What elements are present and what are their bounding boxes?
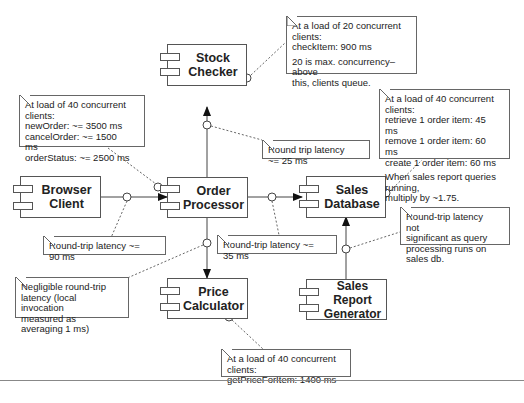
component-price-calculator[interactable]: PriceCalculator xyxy=(167,278,248,319)
interface-price-link xyxy=(203,239,211,247)
component-tab-icon xyxy=(160,185,180,193)
note-browser-latency: Round-trip latency ~= 90 ms xyxy=(43,236,166,255)
note-line: latency (local invocation xyxy=(21,293,116,314)
component-tab-icon xyxy=(13,185,33,193)
component-tab-icon xyxy=(160,53,180,61)
note-line: measured as averaging 1 ms) xyxy=(21,314,116,335)
component-tab-icon xyxy=(160,303,180,311)
note-line: Round-trip latency ~= 35 ms xyxy=(223,240,324,261)
note-price-calculator-load: At a load of 40 concurrent clients: getP… xyxy=(221,349,351,377)
note-fold-icon xyxy=(20,95,30,105)
note-line: processing runs on sales db. xyxy=(406,244,497,265)
note-line: remove 1 order item: 60 ms xyxy=(385,136,497,157)
component-stock-checker[interactable]: StockChecker xyxy=(167,44,247,86)
note-line: this, clients queue. xyxy=(292,78,404,89)
note-line: At load of 40 concurrent clients: xyxy=(25,100,132,121)
note-line: Negligible round-trip xyxy=(21,282,116,293)
note-fold-icon xyxy=(44,236,54,246)
note-line: cancelOrder: ~= 1500 ms xyxy=(25,132,132,153)
note-report-latency: Round-trip latency not significant as qu… xyxy=(400,207,510,245)
note-sales-database-load: At a load of 40 concurrent clients: retr… xyxy=(379,89,510,159)
component-sales-report-generator[interactable]: Sales ReportGenerator xyxy=(306,279,387,320)
component-label: PriceCalculator xyxy=(182,279,245,318)
bottom-divider xyxy=(0,380,524,381)
component-label: Sales ReportGenerator xyxy=(321,280,384,319)
note-line: retrieve 1 order item: 45 ms xyxy=(385,115,497,136)
note-line: Round trip latency ~= 25 ms xyxy=(268,145,357,166)
interface-browser xyxy=(123,193,131,201)
interface-database-link xyxy=(268,193,276,201)
component-sales-database[interactable]: SalesDatabase xyxy=(306,176,386,218)
note-line: 20 is max. concurrency–above xyxy=(292,57,404,78)
component-label: OrderProcessor xyxy=(182,178,245,217)
note-database-latency: Round-trip latency ~= 35 ms xyxy=(217,235,337,254)
component-tab-icon xyxy=(299,288,319,296)
interface-stock xyxy=(203,121,211,129)
note-fold-icon xyxy=(401,207,411,217)
component-tab-icon xyxy=(299,200,319,208)
component-label: SalesDatabase xyxy=(321,177,383,217)
component-label: BrowserClient xyxy=(35,177,98,217)
component-tab-icon xyxy=(160,202,180,210)
note-line: orderStatus: ~= 2500 ms xyxy=(25,153,132,164)
note-fold-icon xyxy=(218,235,228,245)
note-line: Round-trip latency ~= 90 ms xyxy=(49,241,153,262)
note-line: checkItem: 900 ms xyxy=(292,42,404,53)
note-fold-icon xyxy=(222,349,232,359)
note-fold-icon xyxy=(263,140,273,150)
note-fold-icon xyxy=(16,277,26,287)
note-line: At a load of 20 concurrent clients: xyxy=(292,21,404,42)
component-label: StockChecker xyxy=(182,45,244,85)
note-fold-icon xyxy=(287,16,297,26)
component-tab-icon xyxy=(160,287,180,295)
note-line: multiply by ~1.75. xyxy=(385,193,497,204)
note-line: When sales report queries running, xyxy=(385,172,497,193)
component-tab-icon xyxy=(299,185,319,193)
note-order-processor-load: At load of 40 concurrent clients: newOrd… xyxy=(19,95,145,147)
note-stock-latency: Round trip latency ~= 25 ms xyxy=(262,140,370,159)
note-line: Round-trip latency not xyxy=(406,212,497,233)
note-line: At a load of 40 concurrent clients: xyxy=(385,94,497,115)
component-order-processor[interactable]: OrderProcessor xyxy=(167,177,248,218)
component-browser-client[interactable]: BrowserClient xyxy=(20,176,101,218)
component-tab-icon xyxy=(13,202,33,210)
component-tab-icon xyxy=(160,68,180,76)
note-stock-checker-load: At a load of 20 concurrent clients: chec… xyxy=(286,16,417,74)
note-fold-icon xyxy=(380,89,390,99)
note-line: At a load of 40 concurrent clients: xyxy=(227,354,338,375)
note-line: create 1 order item: 60 ms xyxy=(385,158,497,169)
component-tab-icon xyxy=(299,304,319,312)
interface-report-link xyxy=(342,245,350,253)
note-price-latency: Negligible round-trip latency (local inv… xyxy=(15,277,129,318)
